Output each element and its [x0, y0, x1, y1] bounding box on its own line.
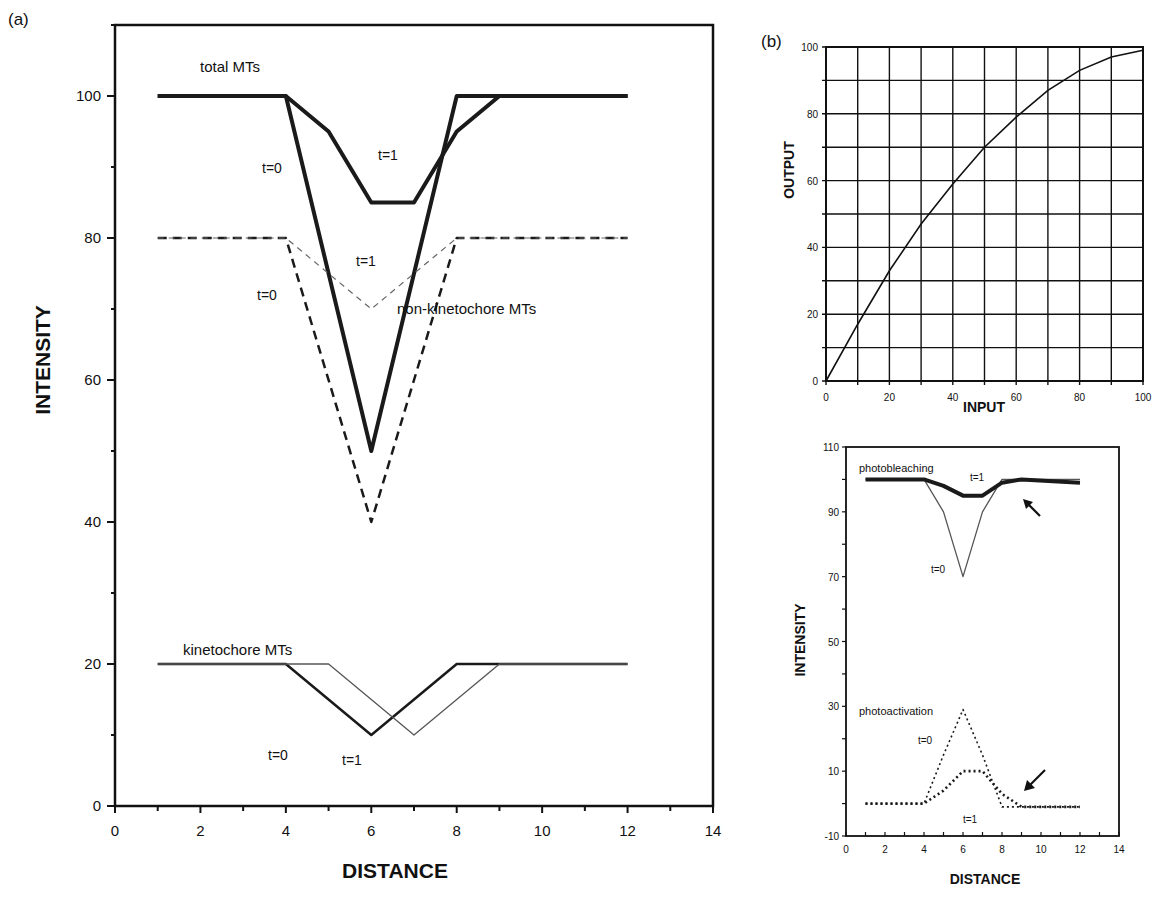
x-tick-label: 2	[882, 844, 888, 855]
y-tick-label: -10	[825, 831, 840, 842]
x-tick-label: 12	[1074, 844, 1086, 855]
annotation-label: photoactivation	[859, 705, 933, 717]
x-tick-label: 8	[999, 844, 1005, 855]
x-tick-label: 4	[921, 844, 927, 855]
y-axis-title: INTENSITY	[792, 603, 808, 677]
plot-frame	[846, 447, 1119, 836]
x-tick-label: 10	[1035, 844, 1047, 855]
y-tick-label: 50	[828, 637, 840, 648]
y-tick-label: 10	[828, 766, 840, 777]
panel-b-bottom-chart: 02468101214-101030507090110DISTANCEINTEN…	[0, 0, 1162, 911]
x-tick-label: 14	[1113, 844, 1125, 855]
arrow-icon	[1029, 770, 1045, 786]
y-tick-label: 70	[828, 572, 840, 583]
annotation-label: t=1	[963, 814, 978, 825]
annotation-label: t=1	[970, 472, 985, 483]
y-tick-label: 90	[828, 507, 840, 518]
annotation-label: photobleaching	[859, 462, 934, 474]
panel-b-bottom-series-2	[866, 710, 1081, 807]
x-tick-label: 6	[960, 844, 966, 855]
y-tick-label: 30	[828, 701, 840, 712]
annotation-label: t=0	[918, 735, 933, 746]
x-axis-title: DISTANCE	[950, 871, 1021, 887]
x-tick-label: 0	[843, 844, 849, 855]
annotation-label: t=0	[931, 564, 946, 575]
y-tick-label: 110	[823, 442, 839, 453]
panel-b-bottom-series-3	[866, 771, 1081, 807]
